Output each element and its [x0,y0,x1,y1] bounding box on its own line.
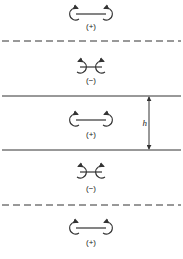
vortex-pair: (+) [70,8,113,31]
vortex-pair: (+) [70,114,113,139]
vortex-image-diagram: (+)(−)(+)(−)(+) h [0,0,183,259]
boundary-lines [2,41,181,205]
vortex-pair: (−) [77,61,105,85]
vortex-pair: (−) [77,166,105,193]
height-label: h [143,118,148,128]
height-dimension: h [143,97,150,149]
sign-label: (+) [86,22,96,31]
vortex-pairs: (+)(−)(+)(−)(+) [70,8,113,247]
sign-label: (−) [86,76,96,85]
sign-label: (+) [86,130,96,139]
sign-label: (+) [86,238,96,247]
sign-label: (−) [86,184,96,193]
vortex-pair: (+) [70,222,113,247]
